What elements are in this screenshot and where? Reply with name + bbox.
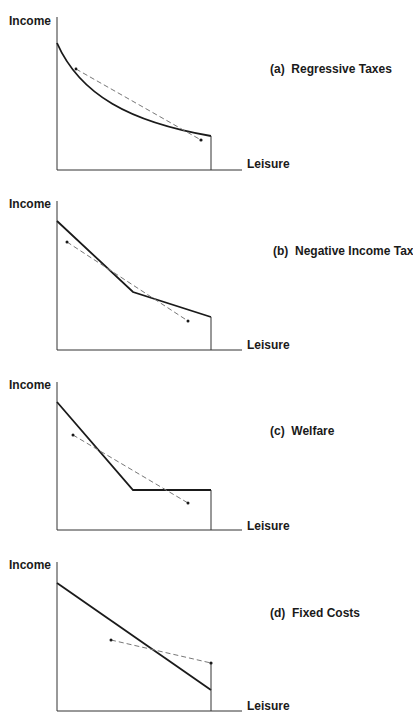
- panel-regressive-taxes: Income Leisure (a) Regressive Taxes: [0, 0, 407, 180]
- x-axis-label: Leisure: [247, 157, 290, 171]
- y-axis-label: Income: [9, 558, 51, 572]
- panel-label: (d) Fixed Costs: [270, 606, 360, 620]
- budget-constraint-line: [57, 583, 211, 690]
- budget-constraint-kinked: [57, 221, 211, 317]
- linear-approximation-dashed: [111, 640, 211, 663]
- panel-welfare: Income Leisure (c) Welfare: [0, 360, 407, 540]
- diagram-fixed-costs: [0, 540, 407, 712]
- y-axis-label: Income: [9, 378, 51, 392]
- point-dot: [187, 502, 190, 505]
- linear-approximation-dashed: [73, 435, 188, 503]
- y-axis-label: Income: [9, 14, 51, 28]
- point-dot: [110, 639, 113, 642]
- point-dot: [209, 661, 212, 664]
- panel-fixed-costs: Income Leisure (d) Fixed Costs: [0, 540, 407, 712]
- panel-label: (b) Negative Income Tax: [273, 244, 413, 258]
- panel-negative-income-tax: Income Leisure (b) Negative Income Tax: [0, 180, 407, 360]
- x-axis-label: Leisure: [247, 338, 290, 352]
- diagram-welfare: [0, 360, 407, 540]
- point-dot: [199, 138, 202, 141]
- budget-constraint-curve: [57, 43, 211, 136]
- x-axis-label: Leisure: [247, 519, 290, 533]
- point-dot: [75, 68, 78, 71]
- y-axis-label: Income: [9, 197, 51, 211]
- linear-approximation-dashed: [76, 69, 201, 140]
- panel-label: (c) Welfare: [270, 424, 334, 438]
- diagram-regressive-taxes: [0, 0, 407, 180]
- point-dot: [187, 320, 190, 323]
- linear-approximation-dashed: [67, 242, 188, 321]
- point-dot: [66, 241, 69, 244]
- point-dot: [72, 434, 75, 437]
- panel-label: (a) Regressive Taxes: [270, 62, 392, 76]
- x-axis-label: Leisure: [247, 699, 290, 712]
- budget-constraint-kinked: [57, 402, 211, 490]
- diagram-negative-income-tax: [0, 180, 407, 360]
